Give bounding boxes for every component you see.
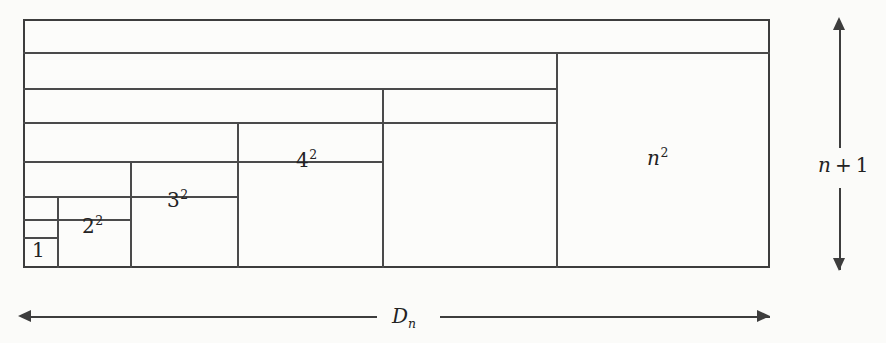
divider-h-2 — [23, 88, 556, 90]
block-label-n-squared: n2 — [647, 148, 668, 168]
block-label-two-squared: 22 — [82, 216, 103, 236]
divider-v-5 — [556, 52, 558, 268]
vertical-dimension-label: n + 1 — [818, 155, 868, 175]
figure-canvas: 1 22 32 42 n2 n + 1 Dn — [0, 0, 886, 343]
divider-v-3 — [237, 122, 239, 268]
arrow-head-right-icon — [757, 310, 770, 322]
arrow-shaft-upper — [839, 28, 841, 148]
block-label-one: 1 — [32, 240, 45, 260]
divider-h-4 — [23, 161, 382, 163]
divider-h-1 — [23, 52, 770, 54]
block-label-three-squared: 32 — [167, 190, 188, 210]
block-label-four-squared: 42 — [296, 150, 317, 170]
divider-v-4 — [382, 88, 384, 268]
arrow-shaft-left — [30, 316, 377, 318]
horizontal-dimension-label: Dn — [392, 306, 416, 326]
divider-h-6 — [23, 219, 130, 221]
arrow-shaft-right — [440, 316, 770, 318]
arrow-head-down-icon — [833, 258, 845, 271]
outer-rectangle — [23, 19, 770, 268]
divider-h-3 — [23, 122, 556, 124]
divider-v-2 — [130, 161, 132, 268]
divider-v-1 — [57, 196, 59, 268]
